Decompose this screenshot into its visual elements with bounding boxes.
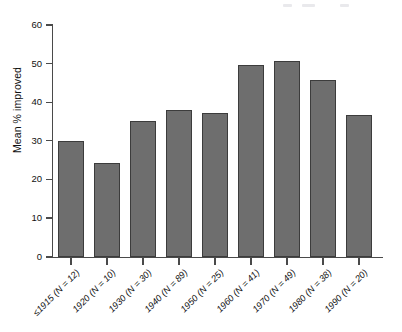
y-axis-label: Mean % improved <box>11 55 23 165</box>
y-axis-tick <box>46 256 53 257</box>
bar <box>166 110 192 256</box>
bar <box>58 141 84 257</box>
x-axis-tick <box>214 258 215 265</box>
y-axis-tick-label: 10 <box>16 212 42 223</box>
x-axis-tick <box>322 258 323 265</box>
bar <box>130 121 156 257</box>
x-axis-tick <box>106 258 107 265</box>
scan-artifact <box>340 4 349 7</box>
scan-artifact <box>302 4 315 7</box>
y-axis-tick-label: 0 <box>16 251 42 262</box>
y-axis-tick <box>46 24 53 25</box>
x-axis-tick <box>142 258 143 265</box>
x-axis-tick <box>250 258 251 265</box>
bar <box>274 61 300 257</box>
bar <box>238 65 264 257</box>
y-axis-tick <box>46 102 53 103</box>
bar <box>94 163 120 257</box>
bar <box>202 113 228 256</box>
y-axis-tick <box>46 179 53 180</box>
x-axis-tick <box>286 258 287 265</box>
x-axis-tick <box>178 258 179 265</box>
x-axis-tick <box>70 258 71 265</box>
y-axis-tick-label: 60 <box>16 19 42 30</box>
y-axis-tick-label: 20 <box>16 173 42 184</box>
y-axis-tick <box>46 217 53 218</box>
bar-chart: Mean % improved 0102030405060 ≤1915 (N =… <box>0 0 402 332</box>
y-axis-tick-label: 30 <box>16 135 42 146</box>
bar <box>346 115 372 256</box>
y-axis-tick <box>46 140 53 141</box>
scan-artifact <box>283 4 292 7</box>
y-axis-tick <box>46 63 53 64</box>
y-axis-tick-label: 50 <box>16 58 42 69</box>
y-axis-tick-label: 40 <box>16 96 42 107</box>
x-axis-tick <box>358 258 359 265</box>
x-axis-tick-label: ≤1915 (N = 12) <box>18 267 82 331</box>
bar <box>310 80 336 256</box>
